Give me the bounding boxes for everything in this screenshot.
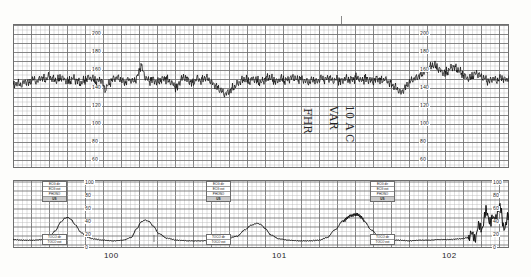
axis-tick-label: 100 (84, 180, 95, 185)
axis-tick-label: 120 (419, 103, 430, 108)
toco-row-toco-ext[interactable]: TOCO ext (371, 240, 394, 244)
axis-tick-label: 120 (91, 103, 102, 108)
time-tick-label: 100 (104, 251, 119, 260)
axis-tick-label: 100 (492, 180, 503, 185)
top-edge-tick (341, 16, 342, 24)
axis-tick-label: 160 (419, 67, 430, 72)
toco-row-toco-ext[interactable]: TOCO ext (207, 240, 230, 244)
axis-tick-label: 140 (419, 85, 430, 90)
axis-tick-label: 0 (492, 245, 497, 250)
fetal-heart-rate-panel (13, 24, 509, 168)
toco-row-toco-ext[interactable]: TOCO ext (43, 240, 66, 244)
toco-trace (13, 180, 509, 248)
axis-tick-label: 80 (91, 139, 99, 144)
mode-row-us[interactable]: US (207, 197, 230, 201)
ctg-chart-sheet: 2001801601401201008060 20018016014012010… (0, 0, 531, 277)
axis-tick-label: 80 (492, 193, 500, 198)
mode-selector-block[interactable]: ECG dirECG extPHONOUS (42, 181, 67, 202)
axis-tick-label: 60 (492, 206, 500, 211)
axis-tick-label: 60 (91, 157, 99, 162)
axis-tick-label: 80 (419, 139, 427, 144)
axis-tick-label: 200 (91, 31, 102, 36)
axis-tick-label: 180 (91, 49, 102, 54)
toco-selector-block[interactable]: TOCO dirTOCO ext (370, 234, 395, 245)
time-tick-label: 101 (272, 251, 287, 260)
axis-tick-label: 140 (91, 85, 102, 90)
axis-tick-label: 60 (84, 206, 92, 211)
axis-tick-label: 100 (419, 121, 430, 126)
mode-selector-block[interactable]: ECG dirECG extPHONOUS (370, 181, 395, 202)
axis-tick-label: 60 (419, 157, 427, 162)
handwritten-annotation: FHR VAR 10 A C (306, 104, 376, 162)
annotation-line-3: 10 A C (343, 105, 356, 142)
axis-tick-label: 20 (492, 232, 500, 237)
toco-selector-block[interactable]: TOCO dirTOCO ext (206, 234, 231, 245)
uterine-activity-panel (13, 180, 509, 248)
annotation-line-2: VAR (327, 106, 340, 129)
toco-selector-block[interactable]: TOCO dirTOCO ext (42, 234, 67, 245)
axis-tick-label: 20 (84, 232, 92, 237)
mode-selector-block[interactable]: ECG dirECG extPHONOUS (206, 181, 231, 202)
axis-tick-label: 100 (91, 121, 102, 126)
time-tick-label: 102 (442, 251, 457, 260)
axis-tick-label: 40 (84, 219, 92, 224)
axis-tick-label: 160 (91, 67, 102, 72)
fhr-trace (13, 24, 509, 168)
mode-row-us[interactable]: US (43, 197, 66, 201)
axis-tick-label: 200 (419, 31, 430, 36)
axis-tick-label: 0 (84, 245, 89, 250)
axis-tick-label: 40 (492, 219, 500, 224)
annotation-line-1: FHR (301, 108, 314, 134)
mode-row-us[interactable]: US (371, 197, 394, 201)
axis-tick-label: 180 (419, 49, 430, 54)
axis-tick-label: 80 (84, 193, 92, 198)
